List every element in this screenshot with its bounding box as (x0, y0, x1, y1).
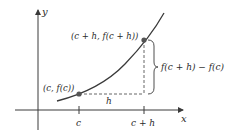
h-label: h (106, 96, 112, 106)
tick-c-label: c (76, 118, 81, 128)
diagram-canvas: y x (c, f(c)) (c + h, f(c + h)) c c + h … (0, 0, 231, 137)
y-axis-label: y (41, 6, 48, 17)
point-c-plus-h (141, 37, 146, 42)
difference-label: f(c + h) − f(c) (160, 62, 225, 72)
tick-c-plus-h-label: c + h (131, 118, 155, 128)
point-c-label: (c, f(c)) (43, 83, 74, 93)
point-c (76, 91, 81, 96)
x-axis-label: x (181, 113, 187, 124)
vertical-gap-brace (148, 40, 158, 94)
point-c-plus-h-label: (c + h, f(c + h)) (71, 31, 138, 41)
